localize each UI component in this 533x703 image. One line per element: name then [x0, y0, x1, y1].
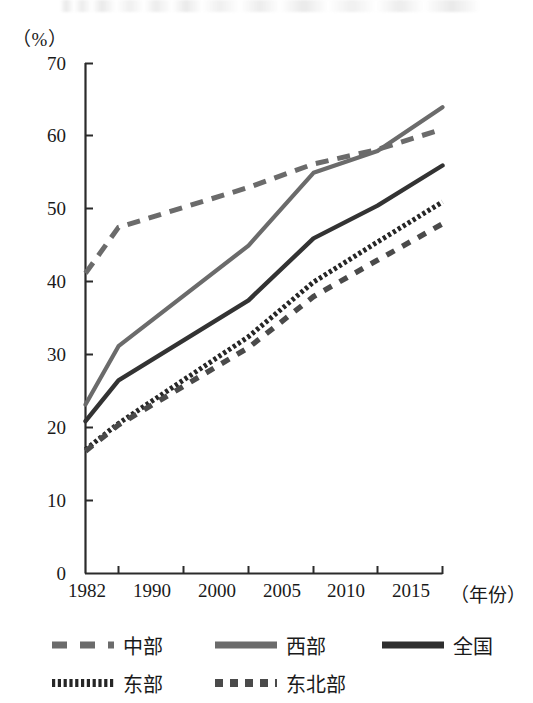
legend-swatch-dotted-icon: [52, 675, 114, 691]
legend-swatch-square-dashed-icon: [215, 675, 277, 691]
legend-label-xibu: 西部: [286, 631, 326, 660]
legend-item-dongbeibu: 东北部: [215, 669, 346, 698]
y-tick-label-40: 40: [26, 271, 66, 293]
legend-row-2: 东部 东北部: [0, 664, 533, 702]
x-tick-label-2015: 2015: [376, 580, 446, 602]
legend-swatch-solid-dark-icon: [382, 637, 444, 653]
x-tick-label-2000: 2000: [182, 580, 252, 602]
y-tick-label-20: 20: [26, 417, 66, 439]
legend-label-quanguo: 全国: [453, 631, 493, 660]
y-tick-label-10: 10: [26, 490, 66, 512]
y-tick-label-50: 50: [26, 198, 66, 220]
legend-label-zhongbu: 中部: [123, 631, 163, 660]
x-tick-label-1990: 1990: [117, 580, 187, 602]
legend-item-xibu: 西部: [215, 631, 326, 660]
x-tick-label-1982: 1982: [52, 580, 122, 602]
y-tick-label-30: 30: [26, 344, 66, 366]
series-line-dongbu: [86, 202, 443, 450]
x-axis-title: （年份）: [450, 580, 526, 607]
series-line-dongbeibu: [86, 224, 443, 451]
legend-item-quanguo: 全国: [382, 631, 493, 660]
legend-row-1: 中部 西部 全国: [0, 626, 533, 664]
legend-label-dongbeibu: 东北部: [286, 669, 346, 698]
y-tick-label-60: 60: [26, 125, 66, 147]
legend-item-zhongbu: 中部: [52, 631, 163, 660]
chart-legend: 中部 西部 全国 东部: [0, 626, 533, 702]
x-tick-label-2005: 2005: [247, 580, 317, 602]
legend-swatch-dashed-icon: [52, 637, 114, 653]
legend-swatch-solid-gray-icon: [215, 637, 277, 653]
y-tick-label-70: 70: [26, 53, 66, 75]
legend-item-dongbu: 东部: [52, 669, 163, 698]
legend-label-dongbu: 东部: [123, 669, 163, 698]
x-tick-label-2010: 2010: [311, 580, 381, 602]
chart-container: （%）: [0, 0, 533, 703]
series-line-quanguo: [86, 166, 443, 422]
